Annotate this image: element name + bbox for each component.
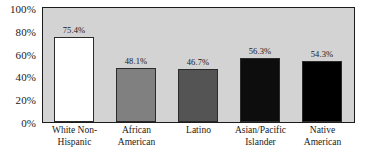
x-axis-category-label: AfricanAmerican xyxy=(106,125,168,148)
y-axis-tick-label: 60% xyxy=(16,49,36,61)
x-axis: White Non-HispanicAfricanAmericanLatinoA… xyxy=(42,125,355,159)
x-axis-category-label: Latino xyxy=(168,125,230,137)
bar-value-label: 48.1% xyxy=(125,56,147,66)
bar-slot: 54.3% xyxy=(291,8,353,122)
plot-area: 75.4%48.1%46.7%56.3%54.3% xyxy=(42,7,355,123)
bar[interactable] xyxy=(116,68,156,122)
y-axis: 100% 80% 60% 40% 20% 0% xyxy=(0,0,40,159)
bar[interactable] xyxy=(54,37,94,122)
x-axis-category-label-line: Asian/Pacific xyxy=(230,125,292,137)
bar-value-label: 54.3% xyxy=(311,49,333,59)
bars-layer: 75.4%48.1%46.7%56.3%54.3% xyxy=(43,8,354,122)
x-axis-category-label-line: Latino xyxy=(168,125,230,137)
x-axis-category-label-line: Islander xyxy=(230,137,292,149)
y-axis-tick-label: 20% xyxy=(16,94,36,106)
x-axis-category-label-line: Native American xyxy=(292,125,354,148)
y-axis-tick-label: 40% xyxy=(16,71,36,83)
x-axis-category-label: Native American xyxy=(292,125,354,148)
bar-chart: 100% 80% 60% 40% 20% 0% 75.4%48.1%46.7%5… xyxy=(0,0,380,159)
bar-slot: 48.1% xyxy=(105,8,167,122)
bar[interactable] xyxy=(178,69,218,122)
bar-value-label: 75.4% xyxy=(63,25,85,35)
bar-value-label: 46.7% xyxy=(187,57,209,67)
x-axis-category-label-line: White Non- xyxy=(44,125,106,137)
x-axis-category-label: White Non-Hispanic xyxy=(44,125,106,148)
bar[interactable] xyxy=(240,58,280,122)
y-axis-tick-label: 80% xyxy=(16,26,36,38)
x-axis-category-label: Asian/PacificIslander xyxy=(230,125,292,148)
bar-slot: 75.4% xyxy=(43,8,105,122)
bar[interactable] xyxy=(302,61,342,122)
x-axis-category-label-line: American xyxy=(106,137,168,149)
bar-slot: 46.7% xyxy=(167,8,229,122)
bar-slot: 56.3% xyxy=(229,8,291,122)
x-axis-category-label-line: Hispanic xyxy=(44,137,106,149)
x-axis-category-label-line: African xyxy=(106,125,168,137)
y-axis-tick-label: 0% xyxy=(21,117,36,129)
bar-value-label: 56.3% xyxy=(249,46,271,56)
y-axis-tick-label: 100% xyxy=(10,3,36,15)
